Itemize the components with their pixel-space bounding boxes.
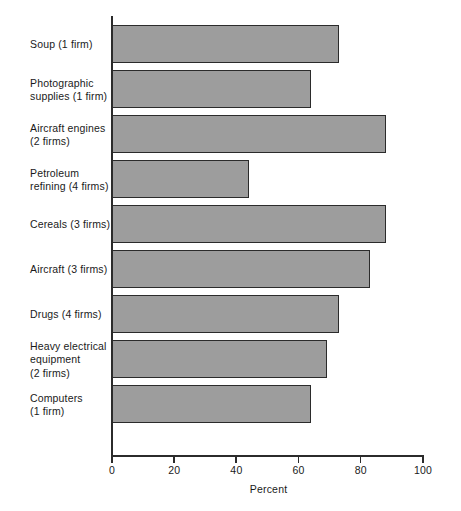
bar-computers [112, 385, 311, 423]
x-tick-0 [111, 457, 113, 463]
x-tick-label-80: 80 [341, 464, 381, 476]
x-axis-title: Percent [112, 483, 425, 495]
x-tick-100 [422, 457, 424, 463]
plot-area: Soup (1 firm) Photographic supplies (1 f… [0, 0, 461, 511]
bar-petroleum-refining [112, 160, 249, 198]
x-tick-20 [173, 457, 175, 463]
bar-aircraft-engines [112, 115, 386, 153]
bar-soup [112, 25, 339, 63]
bar-aircraft [112, 250, 370, 288]
bar-cereals [112, 205, 386, 243]
x-axis-line [111, 455, 424, 457]
bar-row: Aircraft (3 firms) [0, 247, 461, 292]
bar-row: Drugs (4 firms) [0, 292, 461, 337]
bar-photographic-supplies [112, 70, 311, 108]
bar-heavy-electrical-equipment [112, 340, 327, 378]
bar-chart: Soup (1 firm) Photographic supplies (1 f… [0, 0, 461, 511]
x-tick-40 [235, 457, 237, 463]
bar-row: Aircraft engines (2 firms) [0, 112, 461, 157]
x-tick-label-60: 60 [279, 464, 319, 476]
x-tick-label-40: 40 [216, 464, 256, 476]
bar-row: Heavy electrical equipment (2 firms) [0, 337, 461, 382]
bar-row: Cereals (3 firms) [0, 202, 461, 247]
bar-row: Soup (1 firm) [0, 22, 461, 67]
x-tick-60 [298, 457, 300, 463]
x-tick-label-0: 0 [92, 464, 132, 476]
bar-drugs [112, 295, 339, 333]
x-tick-label-100: 100 [403, 464, 443, 476]
bar-row: Computers (1 firm) [0, 382, 461, 427]
bar-row: Photographic supplies (1 firm) [0, 67, 461, 112]
x-tick-80 [360, 457, 362, 463]
x-tick-label-20: 20 [154, 464, 194, 476]
bar-row: Petroleum refining (4 firms) [0, 157, 461, 202]
